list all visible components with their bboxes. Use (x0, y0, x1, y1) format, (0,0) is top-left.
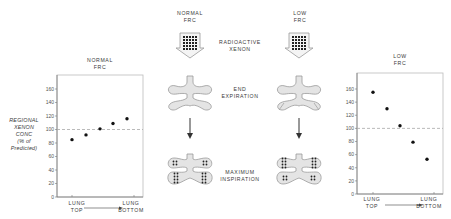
lung-diagrams (0, 0, 451, 219)
